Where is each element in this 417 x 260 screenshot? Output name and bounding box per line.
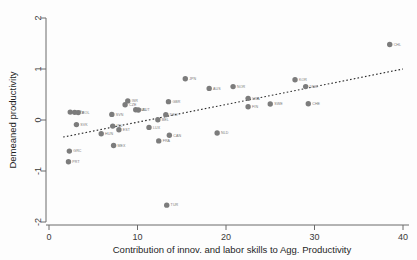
marker-FRA <box>156 138 161 143</box>
point-label-DEU: DEU <box>170 113 178 117</box>
marker-PRT <box>66 159 71 164</box>
marker-GRC <box>67 148 72 153</box>
point-label-BEL: BEL <box>162 118 169 122</box>
point-label-JPN: JPN <box>189 77 196 81</box>
chart-page: 210-1-2010203040 PRTGRCESPITAPOLSVKHUNSV… <box>0 0 417 260</box>
marker-DNK <box>303 84 308 89</box>
point-label-ISR: ISR <box>132 99 139 103</box>
marker-SVK <box>74 122 79 127</box>
marker-CAN <box>167 133 172 138</box>
data-point: SVK <box>74 122 89 127</box>
y-tick-label--2: -2 <box>33 218 43 226</box>
x-tick-label-20: 20 <box>221 232 231 242</box>
axes-group: 210-1-2010203040 <box>33 15 409 242</box>
point-label-CAN: CAN <box>173 134 181 138</box>
marker-CHE <box>306 101 311 106</box>
point-label-GRC: GRC <box>73 149 82 153</box>
data-point: FRA <box>156 138 171 143</box>
marker-IRL <box>110 123 115 128</box>
x-tick-label-40: 40 <box>398 232 408 242</box>
data-point: MEX <box>111 143 126 148</box>
point-label-USA: USA <box>252 97 260 101</box>
point-label-POL: POL <box>82 111 90 115</box>
marker-KOR <box>292 77 297 82</box>
marker-AUT <box>136 107 141 112</box>
marker-CHL <box>387 42 392 47</box>
data-point: CHL <box>387 42 401 47</box>
data-point: DEU <box>163 112 178 117</box>
marker-NOR <box>230 84 235 89</box>
point-label-FRA: FRA <box>163 139 171 143</box>
point-label-TUR: TUR <box>171 203 179 207</box>
data-point: ISR <box>125 98 138 103</box>
data-point: TUR <box>164 202 179 207</box>
point-label-SVK: SVK <box>80 123 88 127</box>
data-point: GBR <box>166 99 181 104</box>
x-axis-title: Contribution of innov. and labor skills … <box>113 244 352 255</box>
marker-SVN <box>109 112 114 117</box>
data-point: GRC <box>67 148 82 153</box>
point-label-CHL: CHL <box>394 43 402 47</box>
marker-EST <box>116 127 121 132</box>
marker-MEX <box>111 143 116 148</box>
data-point: KOR <box>292 77 307 82</box>
data-point: FIN <box>245 104 258 109</box>
data-point: PRT <box>66 159 81 164</box>
point-label-GBR: GBR <box>172 100 180 104</box>
point-label-LUX: LUX <box>153 126 161 130</box>
marker-DEU <box>163 112 168 117</box>
y-tick-label-2: 2 <box>33 15 43 20</box>
data-point: CHE <box>306 101 321 106</box>
point-label-NOR: NOR <box>237 85 246 89</box>
data-points-group: PRTGRCESPITAPOLSVKHUNSVNIRLMEXESTCZEISRN… <box>66 42 401 208</box>
data-point: JPN <box>183 76 197 81</box>
data-point: NLD <box>214 130 228 135</box>
point-label-NLD: NLD <box>221 131 229 135</box>
point-label-AUS: AUS <box>213 87 221 91</box>
data-point: AUT <box>136 107 151 112</box>
data-point: DNK <box>303 84 318 89</box>
marker-LUX <box>146 125 151 130</box>
y-tick-label-0: 0 <box>33 117 43 122</box>
x-tick-label-10: 10 <box>132 232 142 242</box>
marker-POL <box>76 110 81 115</box>
chart-svg: 210-1-2010203040 PRTGRCESPITAPOLSVKHUNSV… <box>0 0 417 260</box>
data-point: LUX <box>146 125 160 130</box>
point-label-PRT: PRT <box>72 160 80 164</box>
data-point: AUS <box>206 86 221 91</box>
data-point: HUN <box>99 131 114 136</box>
point-label-SWE: SWE <box>274 102 283 106</box>
x-tick-label-0: 0 <box>46 232 51 242</box>
scatter-plot: 210-1-2010203040 PRTGRCESPITAPOLSVKHUNSV… <box>0 0 417 260</box>
point-label-KOR: KOR <box>299 78 307 82</box>
marker-FIN <box>245 104 250 109</box>
marker-HUN <box>99 131 104 136</box>
data-point: SVN <box>109 112 124 117</box>
point-label-SVN: SVN <box>116 113 124 117</box>
point-label-DNK: DNK <box>310 85 318 89</box>
point-label-MEX: MEX <box>118 144 127 148</box>
data-point: EST <box>116 127 131 132</box>
marker-TUR <box>164 202 169 207</box>
x-tick-label-30: 30 <box>309 232 319 242</box>
marker-USA <box>245 96 250 101</box>
marker-GBR <box>166 99 171 104</box>
point-label-CZE: CZE <box>129 103 137 107</box>
data-point: NOR <box>230 84 245 89</box>
marker-NLD <box>214 130 219 135</box>
y-axis-title: Demeaned productivity <box>7 71 18 168</box>
y-tick-label--1: -1 <box>33 167 43 175</box>
data-point: SWE <box>268 101 284 106</box>
marker-ISR <box>125 98 130 103</box>
data-point: CAN <box>167 133 182 138</box>
point-label-FIN: FIN <box>252 105 258 109</box>
marker-SWE <box>268 101 273 106</box>
marker-AUS <box>206 86 211 91</box>
data-point: POL <box>76 110 90 115</box>
marker-JPN <box>183 76 188 81</box>
point-label-EST: EST <box>123 128 131 132</box>
data-point: BEL <box>155 117 169 122</box>
data-point: USA <box>245 96 260 101</box>
y-tick-label-1: 1 <box>33 66 43 71</box>
point-label-HUN: HUN <box>105 132 113 136</box>
